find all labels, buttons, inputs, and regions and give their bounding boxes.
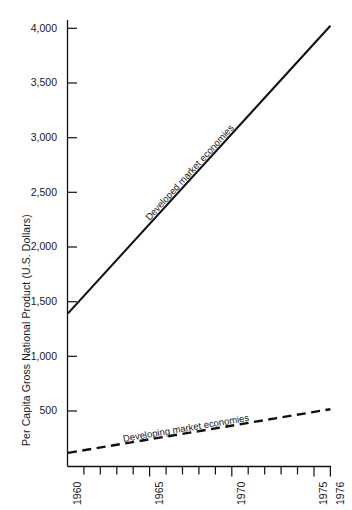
x-tick-label-1975: 1975 (318, 482, 329, 505)
y-tick-label-3500: 3,500 (2, 77, 57, 88)
chart-figure: Per Capita Gross National Product (U.S. … (0, 0, 352, 510)
x-tick-label-1960: 1960 (72, 482, 83, 505)
y-tick-label-2500: 2,500 (2, 187, 57, 198)
y-tick-label-1000: 1,000 (2, 351, 57, 362)
y-tick-label-500: 500 (2, 405, 57, 416)
x-tick-label-1970: 1970 (236, 482, 247, 505)
x-tick-label-1965: 1965 (154, 482, 165, 505)
x-axis-ticks (84, 467, 331, 477)
y-tick-label-3000: 3,000 (2, 132, 57, 143)
y-axis-title: Per Capita Gross National Product (U.S. … (17, 6, 35, 446)
y-axis-ticks (68, 28, 78, 411)
x-tick-label-1976: 1976 (335, 482, 346, 505)
y-tick-label-1500: 1,500 (2, 296, 57, 307)
y-tick-label-4000: 4,000 (2, 23, 57, 34)
y-tick-label-2000: 2,000 (2, 241, 57, 252)
